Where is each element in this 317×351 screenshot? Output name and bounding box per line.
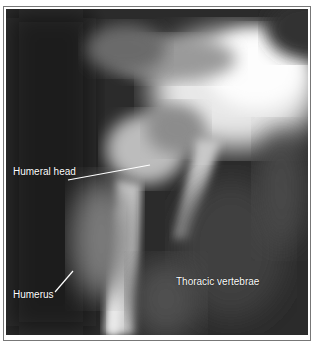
label-humeral-head: Humeral head (13, 166, 76, 177)
label-humerus: Humerus (13, 289, 54, 300)
label-thoracic-vertebrae: Thoracic vertebrae (176, 276, 259, 287)
